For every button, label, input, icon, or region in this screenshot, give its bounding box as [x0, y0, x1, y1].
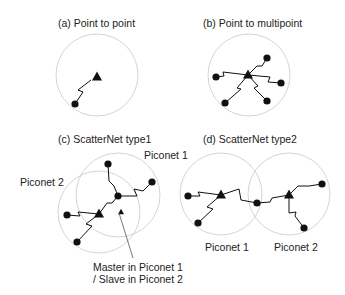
master-node-icon	[92, 72, 102, 81]
panel-c-title: (c) ScatterNet type1	[58, 133, 152, 145]
radio-link	[221, 189, 257, 203]
panel-d-title: (d) ScatterNet type2	[203, 133, 297, 145]
panel-scatternet-type1	[58, 153, 160, 258]
radio-link	[248, 58, 267, 75]
slave-node-icon	[263, 54, 270, 61]
annotation-master-slave-line1: Master in Piconet 1	[93, 261, 183, 273]
radio-link	[75, 80, 91, 104]
annotation-master-slave-line2: / Slave in Piconet 2	[93, 273, 183, 285]
radio-link	[289, 195, 304, 228]
radio-link	[67, 212, 99, 216]
panel-b-title: (b) Point to multipoint	[203, 17, 302, 29]
slave-node-icon	[114, 192, 121, 199]
slave-node-icon	[277, 79, 284, 86]
radio-link	[216, 72, 248, 77]
slave-node-icon	[263, 97, 270, 104]
slave-node-icon	[148, 178, 155, 185]
slave-node-icon	[194, 219, 201, 226]
radio-link	[248, 75, 267, 101]
radio-link	[248, 75, 281, 83]
panel-c-piconet1-label: Piconet 1	[144, 149, 188, 161]
radio-link	[118, 182, 152, 196]
slave-node-icon	[104, 160, 111, 167]
slave-node-icon	[184, 192, 191, 199]
slave-node-icon	[221, 99, 228, 106]
radio-link	[225, 75, 248, 103]
slave-node-icon	[253, 199, 260, 206]
slave-node-icon	[73, 238, 80, 245]
slave-node-icon	[71, 100, 78, 107]
radio-link	[289, 184, 322, 195]
radio-link	[77, 214, 99, 242]
panel-c-piconet2-label: Piconet 2	[20, 176, 64, 188]
slave-node-icon	[63, 211, 70, 218]
slave-node-icon	[300, 224, 307, 231]
panel-scatternet-type2	[180, 153, 330, 235]
panel-d-piconet1-label: Piconet 1	[205, 241, 249, 253]
slave-node-icon	[318, 180, 325, 187]
panel-point-to-multipoint	[208, 34, 290, 116]
panel-a-title: (a) Point to point	[58, 17, 135, 29]
panel-point-to-point	[56, 34, 138, 116]
panel-d-piconet2-label: Piconet 2	[274, 241, 318, 253]
radio-link	[108, 164, 118, 196]
radio-link	[99, 196, 118, 214]
annotation-arrow	[119, 213, 133, 258]
radio-link	[198, 195, 221, 223]
bluetooth-topology-diagram: (a) Point to point (b) Point to multipoi…	[0, 0, 345, 295]
slave-node-icon	[212, 73, 219, 80]
radio-link	[188, 192, 221, 196]
